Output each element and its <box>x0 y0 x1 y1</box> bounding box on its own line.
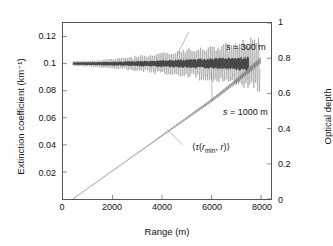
annotation-s-300: s = 300 m <box>226 42 266 52</box>
x-axis-tick-labels: 02000400060008000 <box>62 202 272 218</box>
annotation-optical-depth: ⟨τ(rmin, r)⟩ <box>192 142 230 154</box>
x-axis-tick-0: 0 <box>59 202 64 212</box>
y-axis-right-tick-0.2: 0.2 <box>278 159 291 169</box>
y-axis-left-tick-0.06: 0.06 <box>38 113 56 123</box>
x-axis-tick-6000: 6000 <box>202 202 222 212</box>
y-axis-right-tick-0.6: 0.6 <box>278 88 291 98</box>
min-subscript: min <box>205 147 215 154</box>
y-axis-left-tick-0.04: 0.04 <box>38 140 56 150</box>
y-axis-left-tick-0.12: 0.12 <box>38 31 56 41</box>
annotation-leader-lines <box>167 32 213 145</box>
y-axis-left-tick-labels: 0.020.040.060.080.10.12 <box>0 22 56 200</box>
plot-area: s = 300 m s = 1000 m ⟨τ(rmin, r)⟩ <box>62 22 272 200</box>
y-axis-left-tick-0.1: 0.1 <box>43 58 56 68</box>
angle-bracket-close: ⟩ <box>226 142 230 152</box>
y-axis-right-tick-1: 1 <box>278 17 283 27</box>
annotation-s-1000: s = 1000 m <box>223 107 268 117</box>
y-axis-left-title: Extinction coefficient (km⁻¹) <box>15 42 26 192</box>
y-axis-right-tick-0.4: 0.4 <box>278 124 291 134</box>
y-axis-left-tick-0.02: 0.02 <box>38 168 56 178</box>
x-axis-tick-8000: 8000 <box>252 202 272 212</box>
y-axis-left-tick-0.08: 0.08 <box>38 85 56 95</box>
y-axis-right-tick-labels: 00.20.40.60.81 <box>278 22 308 200</box>
x-axis-tick-4000: 4000 <box>152 202 172 212</box>
x-axis-title: Range (m) <box>62 226 272 237</box>
series-optical-depth-trace <box>73 57 261 199</box>
y-axis-right-title: Optical depth <box>322 42 333 192</box>
x-axis-tick-2000: 2000 <box>102 202 122 212</box>
y-axis-right-tick-0: 0 <box>278 195 283 205</box>
annotation-s-1000-text: = 1000 m <box>228 107 268 117</box>
annotation-s-300-text: = 300 m <box>231 42 266 52</box>
y-axis-right-tick-0.8: 0.8 <box>278 53 291 63</box>
